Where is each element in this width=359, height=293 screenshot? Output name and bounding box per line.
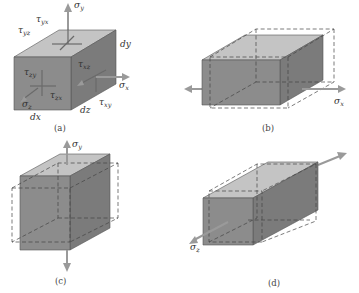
cube-front-face — [203, 198, 253, 245]
caption-d: (d) — [268, 278, 280, 288]
dy-label: dy — [120, 39, 132, 49]
panel-d: σz (d) — [189, 152, 347, 288]
cube-front-face — [20, 176, 70, 250]
stress-element-diagram: σy τyx τyz dy τxz σx τzy τzx σz τxy dx d… — [0, 0, 359, 293]
sigma-z-back-arrow — [318, 152, 347, 165]
caption-c: (c) — [55, 276, 66, 286]
svg-text:σz: σz — [190, 242, 200, 254]
panel-a: σy τyx τyz dy τxz σx τzy τzx σz τxy dx d… — [14, 0, 132, 133]
caption-b: (b) — [262, 123, 274, 133]
sigma-x-left-arrow — [184, 85, 202, 93]
panel-c: σy (c) — [12, 139, 118, 286]
svg-text:σx: σx — [119, 80, 129, 92]
svg-text:τyz: τyz — [18, 25, 31, 37]
dx-label: dx — [30, 112, 41, 122]
cube-front-face — [202, 60, 280, 105]
dz-label: dz — [80, 105, 91, 115]
sigma-y-down-arrow — [63, 250, 71, 272]
svg-text:σy: σy — [74, 0, 84, 12]
panel-b: σx (b) — [184, 29, 346, 133]
svg-text:σx: σx — [334, 96, 344, 108]
caption-a: (a) — [54, 123, 66, 133]
svg-text:τxy: τxy — [99, 97, 112, 109]
svg-text:σy: σy — [72, 139, 82, 151]
svg-text:τyx: τyx — [36, 14, 49, 26]
